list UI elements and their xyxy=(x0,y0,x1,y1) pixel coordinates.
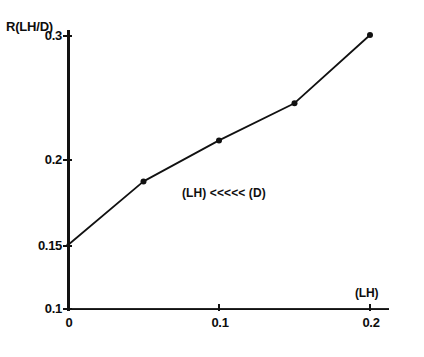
y-tick-label-0: 0.3 xyxy=(45,28,62,43)
x-tick-mark-0.1 xyxy=(218,304,220,311)
y-axis-line xyxy=(67,30,70,311)
plot-annotation: (LH) <<<<< (D) xyxy=(182,186,266,200)
data-markers xyxy=(66,32,373,247)
x-axis-title: (LH) xyxy=(355,286,378,300)
y-tick-label-2: 0.15 xyxy=(38,238,62,253)
data-point xyxy=(216,137,222,143)
data-point xyxy=(367,32,373,38)
data-point xyxy=(141,178,147,184)
y-tick-mark-0.2 xyxy=(63,159,72,161)
y-tick-label-3: 0.1 xyxy=(45,301,62,316)
x-tick-label-2: 0.2 xyxy=(362,315,379,330)
x-tick-mark-0 xyxy=(67,304,69,311)
y-tick-label-1: 0.2 xyxy=(45,152,62,167)
y-tick-mark-0.15 xyxy=(63,245,72,247)
x-tick-label-1: 0.1 xyxy=(211,315,228,330)
x-tick-label-0: 0 xyxy=(66,315,73,330)
x-axis-line xyxy=(67,308,389,310)
y-tick-mark-0.3 xyxy=(63,35,72,37)
plot-area xyxy=(0,0,424,357)
data-point xyxy=(292,100,298,106)
x-tick-mark-0.2 xyxy=(369,304,371,311)
chart-figure: R(LH/D) 0.3 0.2 0.15 0.1 0 0.1 0.2 (LH) … xyxy=(0,0,424,357)
data-line xyxy=(68,35,370,245)
